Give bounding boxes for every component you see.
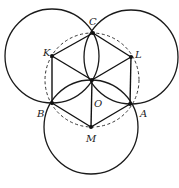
- label-a: A: [139, 108, 147, 119]
- point-m: [89, 125, 93, 129]
- segment-mo: [91, 80, 92, 127]
- point-c: [91, 31, 95, 35]
- geometry-diagram: C K L O B A M: [0, 0, 179, 188]
- label-c: C: [89, 16, 97, 27]
- label-m: M: [85, 133, 97, 144]
- point-l: [129, 55, 133, 59]
- point-o: [90, 78, 94, 82]
- segment-ko: [52, 56, 92, 80]
- segment-kc: [52, 33, 93, 56]
- label-b: B: [36, 108, 44, 119]
- label-k: K: [42, 47, 51, 58]
- label-l: L: [134, 49, 142, 60]
- label-o: O: [94, 98, 102, 109]
- point-k: [50, 54, 54, 58]
- segment-la: [130, 57, 131, 104]
- point-b: [50, 101, 54, 105]
- segment-mb: [52, 103, 91, 127]
- point-a: [128, 102, 132, 106]
